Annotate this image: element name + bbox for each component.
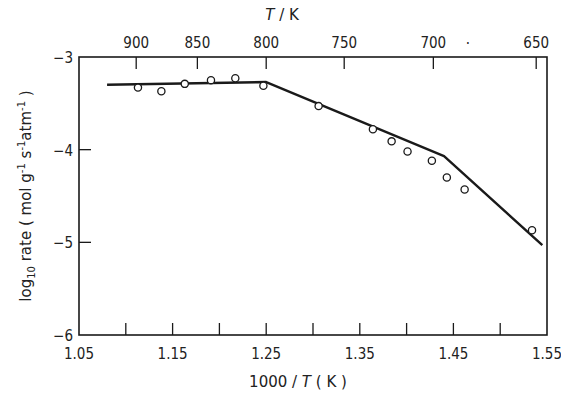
x-tick-label: 1.15 xyxy=(158,345,188,363)
data-point xyxy=(260,82,267,89)
x-tick-label: 1.25 xyxy=(251,345,281,363)
top-tick-label: 750 xyxy=(331,34,357,52)
y-tick-label: −5 xyxy=(53,234,73,252)
y-title-exp1: -1 xyxy=(16,163,27,173)
data-point xyxy=(158,88,165,95)
y-title-close: ) xyxy=(17,90,35,101)
top-axis-unit: / K xyxy=(274,6,300,24)
y-title-atm: atm xyxy=(17,111,35,141)
chart: 1.051.151.251.351.451.55 −3−4−5−6 900850… xyxy=(0,0,561,405)
data-point xyxy=(404,148,411,155)
x-axis-title-unit: ( K ) xyxy=(311,373,347,391)
data-point xyxy=(369,126,376,133)
top-tick-label: 900 xyxy=(123,34,149,52)
fit-line xyxy=(107,82,542,245)
y-title-s: s xyxy=(17,150,35,163)
data-point xyxy=(181,80,188,87)
x-tick-label: 1.05 xyxy=(64,345,94,363)
y-tick-label: −3 xyxy=(53,49,73,67)
y-axis-title: log10 rate ( mol g-1 s-1atm-1 ) xyxy=(16,90,37,301)
data-point xyxy=(315,103,322,110)
x-tick-label: 1.35 xyxy=(345,345,375,363)
data-point xyxy=(134,84,141,91)
data-point xyxy=(528,227,535,234)
y-axis-ticks: −3−4−5−6 xyxy=(53,49,91,345)
fit-polyline xyxy=(107,82,542,245)
y-title-log: log xyxy=(17,279,35,302)
plot-frame xyxy=(79,57,547,335)
x-axis-ticks: 1.051.151.251.351.451.55 xyxy=(64,323,561,363)
top-tick-label: 650 xyxy=(523,34,549,52)
stray-mark: . xyxy=(466,30,470,48)
top-tick-label: 800 xyxy=(253,34,279,52)
y-title-sub: 10 xyxy=(26,266,37,279)
top-tick-label: 850 xyxy=(184,34,210,52)
data-point xyxy=(388,138,395,145)
top-axis-ticks: 900850800750700650 xyxy=(123,34,549,69)
data-point xyxy=(461,186,468,193)
y-tick-label: −6 xyxy=(53,327,73,345)
top-axis-title: T / K xyxy=(265,6,300,24)
data-point xyxy=(443,174,450,181)
y-tick-label: −4 xyxy=(53,142,73,160)
y-title-rate: rate ( mol g xyxy=(17,173,35,266)
x-tick-label: 1.55 xyxy=(532,345,561,363)
data-point xyxy=(232,75,239,82)
x-tick-label: 1.45 xyxy=(438,345,468,363)
x-axis-title-main: 1000 / xyxy=(249,373,302,391)
data-point xyxy=(207,77,214,84)
top-tick-label: 700 xyxy=(420,34,446,52)
data-point xyxy=(428,157,435,164)
y-title-exp3: -1 xyxy=(16,101,27,111)
plot-border xyxy=(79,57,547,335)
y-title-exp2: -1 xyxy=(16,141,27,151)
x-axis-title: 1000 / T ( K ) xyxy=(249,373,347,391)
data-points xyxy=(134,75,535,234)
